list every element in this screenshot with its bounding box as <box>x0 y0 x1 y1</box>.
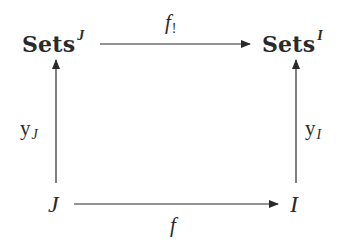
top-arrow-label: f! <box>165 12 177 33</box>
node-bottom-right: I <box>290 192 298 216</box>
node-top-left: SetsJ <box>22 33 84 55</box>
node-bottom-left-label: J <box>48 191 59 217</box>
node-bottom-right-label: I <box>290 191 298 217</box>
left-arrow-label-base: y <box>20 116 31 140</box>
node-bottom-left: J <box>48 192 59 216</box>
right-arrow-label-subscript: I <box>317 127 322 142</box>
node-top-left-base: Sets <box>22 31 75 57</box>
top-arrow-label-subscript: ! <box>172 21 177 36</box>
node-top-left-superscript: J <box>77 28 84 43</box>
top-arrow-label-base: f <box>165 10 171 34</box>
node-top-right-base: Sets <box>262 31 315 57</box>
bottom-arrow-label: f <box>170 215 176 236</box>
bottom-arrow-label-base: f <box>170 213 176 237</box>
node-top-right: SetsI <box>262 33 323 55</box>
node-top-right-superscript: I <box>317 28 323 43</box>
left-arrow-label-subscript: J <box>32 127 38 142</box>
right-arrow-label-base: y <box>305 116 316 140</box>
right-arrow-label: yI <box>305 118 321 139</box>
left-arrow-label: yJ <box>20 118 38 139</box>
